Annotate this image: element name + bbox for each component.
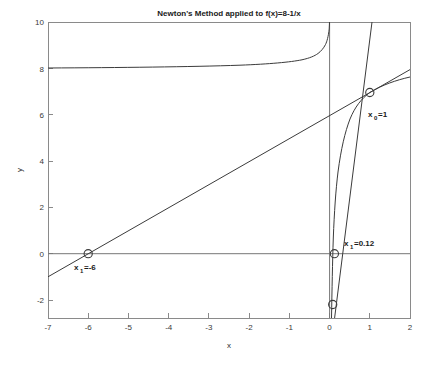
point-label-x0-value: =1 — [378, 110, 388, 119]
point-label-x1-iterate-base: x — [344, 239, 349, 248]
x-tick-label-neg3: -3 — [205, 323, 213, 332]
x-tick-label-neg6: -6 — [85, 323, 93, 332]
x-tick-label-1: 1 — [368, 323, 373, 332]
x-tick-label-neg1: -1 — [286, 323, 294, 332]
x-axis-title: x — [227, 341, 231, 350]
x-tick-label-neg2: -2 — [246, 323, 254, 332]
y-axis-title: y — [15, 168, 24, 172]
y-tick-label-0: 0 — [40, 250, 45, 259]
x-tick-label-2: 2 — [408, 323, 413, 332]
point-label-x0-base: x — [368, 110, 373, 119]
y-tick-label-neg2: -2 — [37, 296, 45, 305]
y-tick-label-4: 4 — [40, 157, 45, 166]
y-tick-label-8: 8 — [40, 65, 45, 74]
x-tick-label-0: 0 — [327, 323, 332, 332]
point-label-x1-iterate-value: =0.12 — [354, 239, 375, 248]
figure-container: Newton's Method applied to f(x)=8-1/x 10… — [0, 0, 441, 366]
point-label-x1-root-value: =-6 — [84, 263, 96, 272]
plot-background — [0, 0, 441, 366]
y-tick-label-2: 2 — [40, 203, 45, 212]
point-label-x1-root-base: x — [74, 263, 79, 272]
x-tick-label-neg7: -7 — [44, 323, 52, 332]
y-tick-label-10: 10 — [35, 18, 44, 27]
chart-title: Newton's Method applied to f(x)=8-1/x — [157, 9, 301, 18]
x-tick-label-neg4: -4 — [165, 323, 173, 332]
newton-method-plot: Newton's Method applied to f(x)=8-1/x 10… — [0, 0, 441, 366]
x-tick-label-neg5: -5 — [125, 323, 133, 332]
y-tick-label-6: 6 — [40, 111, 45, 120]
